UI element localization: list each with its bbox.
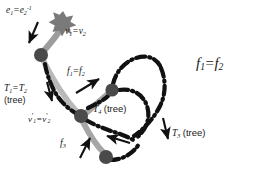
label-tree-12-note: (tree) xyxy=(4,96,27,105)
arrow-f1-f2 xyxy=(76,79,99,93)
label-face-3: f3 xyxy=(60,138,66,149)
label-t4-sub: 4 xyxy=(98,109,101,115)
label-tree-3: T3 (tree) xyxy=(172,128,205,139)
tree-edge-star-to-upper xyxy=(42,27,62,53)
dashdot-bottom-outer-loop xyxy=(110,144,139,160)
arrow-e1 xyxy=(29,22,38,43)
label-vertex-identification: v1=v2 xyxy=(65,27,86,37)
label-f3-sub: 3 xyxy=(63,142,66,149)
dashdot-right-loop xyxy=(134,68,165,136)
node-bottom xyxy=(99,150,113,164)
label-f2l-sub: 2 xyxy=(219,61,224,72)
arrow-f3 xyxy=(80,138,90,158)
label-f2s-sub: 2 xyxy=(82,71,85,77)
label-e2-sup: -1 xyxy=(27,5,32,11)
graph-drawing xyxy=(0,0,254,174)
node-center-left xyxy=(74,109,88,123)
label-v2-sub: 2 xyxy=(83,31,86,37)
label-vp2-sub: 2 xyxy=(48,118,51,124)
label-vertex-prime-identification: v'1=v'2 xyxy=(28,114,50,125)
arrow-t3 xyxy=(163,118,168,139)
dashdot-upper-loop xyxy=(113,57,161,84)
label-face-12-large: f1=f2 xyxy=(196,56,223,72)
label-t3-sub: 3 xyxy=(177,133,180,139)
label-tree-12: T1=T2 (tree) xyxy=(4,84,27,105)
label-t2-sub: 2 xyxy=(24,88,27,94)
label-tree-3-note: (tree) xyxy=(183,127,206,138)
node-center-right xyxy=(105,83,118,96)
node-upper-left xyxy=(34,48,48,62)
label-tree-4-note: (tree) xyxy=(104,103,127,114)
label-face-12-small: f1=f2 xyxy=(67,67,85,77)
label-edge-identification: e1=e2-1 xyxy=(6,6,32,16)
label-tree-4: T4 (tree) xyxy=(93,104,126,115)
figure-canvas: e1=e2-1 v1=v2 T1=T2 (tree) v'1=v'2 f1=f2… xyxy=(0,0,254,174)
